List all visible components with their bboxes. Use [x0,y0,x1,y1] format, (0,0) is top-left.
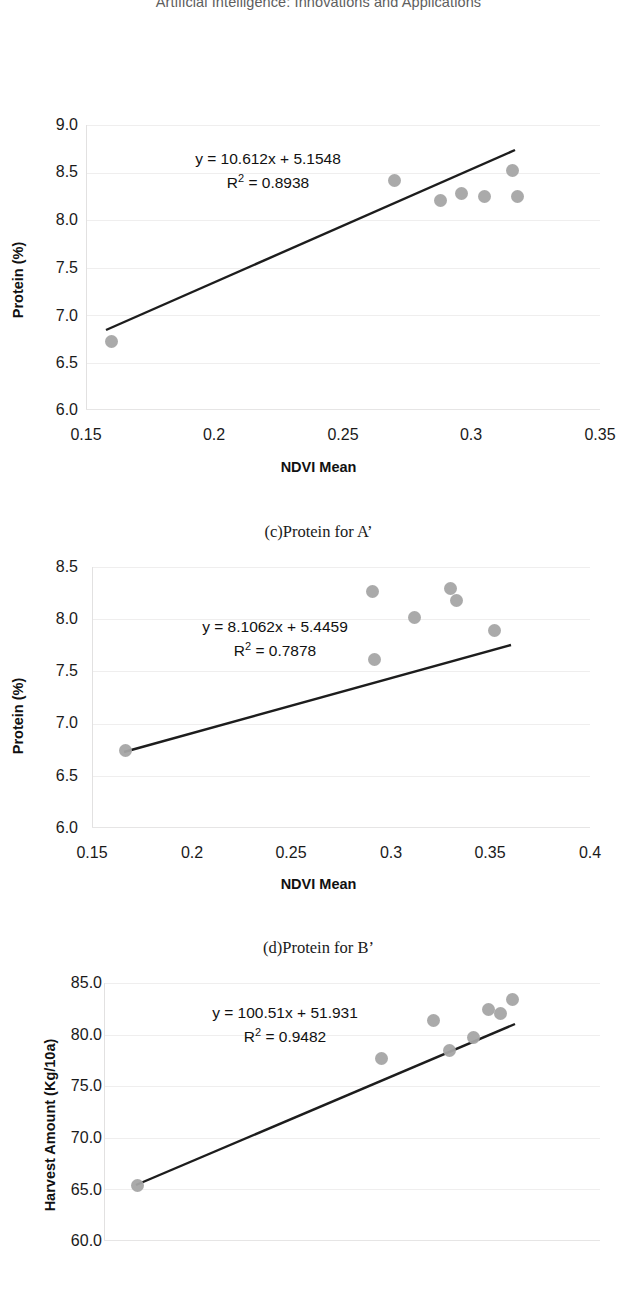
chart1-y-tick: 7.5 [56,259,78,277]
chart1-equation-line: y = 10.612x + 5.1548 [138,147,398,170]
chart3-equation-line: y = 100.51x + 51.931 [154,1001,416,1024]
chart3-y-ticks: 85.0 80.0 75.0 70.0 65.0 60.0 [40,975,102,1241]
chart3-y-tick: 85.0 [71,974,102,992]
running-header: Artificial Intelligence: Innovations and… [0,0,637,10]
chart2-r2-value: = 0.7878 [251,642,316,659]
chart2-data-point [488,624,501,637]
chart3-r2-line: R2 = 0.9482 [154,1024,416,1048]
chart3-y-tick: 60.0 [71,1232,102,1250]
figure-protein-b: Protein (%) 8.5 8.0 7.5 7.0 6.5 6.0 y = … [0,560,637,950]
caption-protein-b: (d)Protein for B’ [0,938,637,958]
chart1-r2-symbol: R [227,174,238,191]
chart1-y-tick: 9.0 [56,116,78,134]
chart1-data-box [455,187,468,200]
chart2-r2-line: R2 = 0.7878 [150,638,400,662]
chart3-y-tick: 75.0 [71,1077,102,1095]
figure-harvest-amount: Harvest Amount (Kg/10a) 85.0 80.0 75.0 7… [0,975,637,1299]
chart1-plot-area: y = 10.612x + 5.1548 R2 = 0.8938 [86,125,600,410]
chart3-data-point [427,1014,440,1027]
chart2-x-tick: 0.35 [474,844,505,862]
chart1-y-ticks: 9.0 8.5 8.0 7.5 7.0 6.5 6.0 [28,118,78,410]
chart2-y-ticks: 8.5 8.0 7.5 7.0 6.5 6.0 [28,560,78,828]
chart2-plot-area: y = 8.1062x + 5.4459 R2 = 0.7878 [92,567,590,828]
chart1-x-tick: 0.25 [327,426,358,444]
chart1-data-point [434,194,447,207]
chart2-equation-annotation: y = 8.1062x + 5.4459 R2 = 0.7878 [150,615,400,663]
chart2-x-tick: 0.3 [380,844,402,862]
chart2-y-tick: 6.5 [56,767,78,785]
chart3-data-point [494,1007,507,1020]
chart3-r2-value: = 0.9482 [261,1028,326,1045]
chart2-data-point [450,594,463,607]
chart1-y-tick: 8.5 [56,163,78,181]
chart2-y-tick: 7.0 [56,714,78,732]
chart1-r2-line: R2 = 0.8938 [138,170,398,194]
chart2-equation-line: y = 8.1062x + 5.4459 [150,615,400,638]
chart2-y-tick: 7.5 [56,662,78,680]
chart3-plot-area: y = 100.51x + 51.931 R2 = 0.9482 [104,983,600,1241]
chart3-r2-symbol: R [244,1028,255,1045]
chart3-data-point [131,1179,144,1192]
figure-protein-a: Protein (%) 9.0 8.5 8.0 7.5 7.0 6.5 6.0 [0,118,637,518]
chart2-x-tick: 0.15 [76,844,107,862]
chart1-y-tick: 7.0 [56,307,78,325]
chart1-equation-annotation: y = 10.612x + 5.1548 R2 = 0.8938 [138,147,398,195]
chart2-y-tick: 6.0 [56,819,78,837]
chart2-r2-symbol: R [234,642,245,659]
chart2-y-tick: 8.0 [56,610,78,628]
chart2-x-axis-title: NDVI Mean [0,876,637,892]
chart1-y-tick: 6.0 [56,401,78,419]
chart1-y-tick: 8.0 [56,211,78,229]
chart1-x-tick: 0.3 [460,426,482,444]
chart3-y-tick: 80.0 [71,1026,102,1044]
chart2-trendline [92,567,590,828]
chart2-x-tick: 0.25 [275,844,306,862]
chart3-data-point [467,1031,480,1044]
chart2-x-tick: 0.4 [579,844,601,862]
chart2-data-point [444,582,457,595]
chart2-x-tick: 0.2 [181,844,203,862]
chart1-x-tick: 0.2 [203,426,225,444]
chart3-y-tick: 70.0 [71,1129,102,1147]
chart1-data-point [478,190,491,203]
chart1-x-tick: 0.35 [584,426,615,444]
chart1-x-axis-title: NDVI Mean [0,459,637,475]
chart3-equation-annotation: y = 100.51x + 51.931 R2 = 0.9482 [154,1001,416,1049]
chart2-y-tick: 8.5 [56,558,78,576]
chart3-y-tick: 65.0 [71,1181,102,1199]
caption-protein-a: (c)Protein for A’ [0,522,637,542]
chart1-y-axis-title: Protein (%) [10,180,26,380]
chart1-y-tick: 6.5 [56,354,78,372]
chart1-r2-value: = 0.8938 [244,174,309,191]
chart3-data-point [443,1044,456,1057]
chart1-x-tick: 0.15 [70,426,101,444]
chart2-y-axis-title: Protein (%) [10,616,26,816]
